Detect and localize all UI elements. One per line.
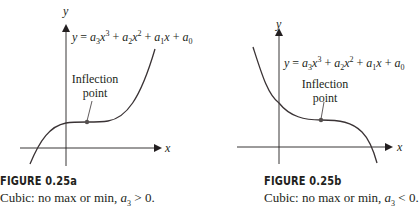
- figure-a-leader-line: [87, 101, 92, 121]
- figure-a-x-label: x: [165, 141, 170, 156]
- figure-a-caption: Cubic: no max or min, a3 > 0.: [0, 190, 155, 208]
- figure-a-equation: y = a3x3 + a2x2 + a1x + a0: [72, 29, 192, 46]
- figure-b-caption: Cubic: no max or min, a3 < 0.: [264, 190, 419, 208]
- figure-a-inflection-point: [85, 120, 89, 124]
- figure-a-title: FIGURE 0.25a: [0, 174, 77, 188]
- figure-b-equation: y = a3x3 + a2x2 + a1x + a0: [284, 55, 404, 72]
- figure-b-x-label: x: [397, 140, 402, 155]
- figure-b-annotation: Inflection point: [300, 77, 350, 105]
- figure-b-y-label: y: [276, 17, 281, 32]
- figure-a-y-label: y: [63, 4, 68, 19]
- figure-a-cubic-curve: [30, 49, 155, 164]
- figure-b-title: FIGURE 0.25b: [264, 174, 341, 188]
- figure-b-inflection-point: [319, 118, 323, 122]
- figure-a-annotation: Inflection point: [70, 72, 120, 100]
